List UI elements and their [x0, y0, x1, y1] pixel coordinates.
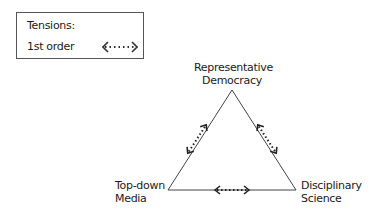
node-left-line2: Media — [115, 192, 165, 205]
node-right-line1: Disciplinary — [301, 179, 362, 192]
edge-top-right — [232, 90, 296, 190]
node-top-line2: Democracy — [194, 74, 270, 87]
tension-arrow-left-icon — [184, 123, 209, 156]
node-disciplinary-science: Disciplinary Science — [301, 179, 362, 205]
tension-arrow-right-icon — [254, 123, 279, 156]
node-top-down-media: Top-down Media — [115, 179, 165, 205]
node-left-line1: Top-down — [115, 179, 165, 192]
node-representative-democracy: Representative Democracy — [194, 61, 270, 87]
edge-top-left — [168, 90, 232, 190]
node-top-line1: Representative — [194, 61, 270, 74]
node-right-line2: Science — [301, 192, 362, 205]
